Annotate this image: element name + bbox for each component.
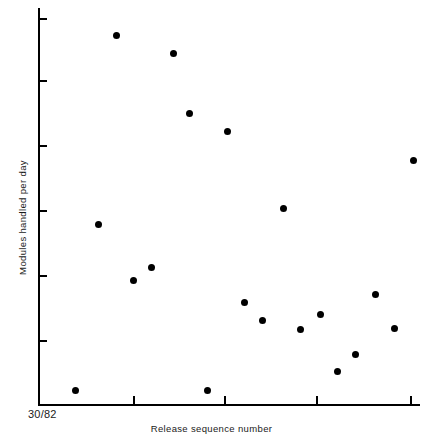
- data-point: [391, 325, 398, 332]
- data-point: [297, 326, 304, 333]
- data-point: [372, 291, 379, 298]
- data-point: [224, 128, 231, 135]
- data-point: [352, 351, 359, 358]
- data-point: [72, 387, 79, 394]
- y-axis-title: Modules handled per day: [17, 128, 28, 308]
- data-point: [241, 299, 248, 306]
- data-point: [148, 264, 155, 271]
- data-point: [410, 157, 417, 164]
- data-point: [130, 277, 137, 284]
- data-point: [259, 317, 266, 324]
- x-axis-title: Release sequence number: [0, 423, 423, 434]
- data-point: [334, 368, 341, 375]
- data-point: [280, 205, 287, 212]
- data-point: [113, 32, 120, 39]
- data-point: [204, 387, 211, 394]
- data-point: [170, 50, 177, 57]
- data-points-layer: [0, 0, 423, 437]
- data-point: [317, 311, 324, 318]
- data-point: [95, 221, 102, 228]
- scatter-plot-figure: 30/82 Release sequence number Modules ha…: [0, 0, 423, 437]
- x-axis-origin-tick-label: 30/82: [28, 408, 57, 420]
- data-point: [186, 110, 193, 117]
